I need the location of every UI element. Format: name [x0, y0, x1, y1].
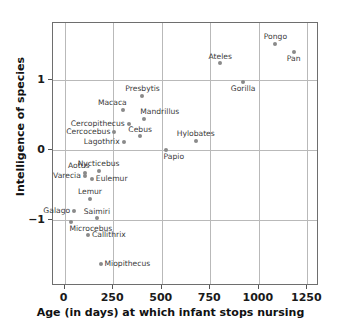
- data-point-label: Lemur: [78, 188, 102, 196]
- data-point: [142, 117, 146, 121]
- data-point: [90, 177, 94, 181]
- data-point-label: Papio: [164, 153, 184, 161]
- data-point: [273, 42, 277, 46]
- data-point-label: Ateles: [208, 53, 231, 61]
- data-point-label: Cercocebus: [66, 128, 110, 136]
- data-point-label: Hylobates: [177, 130, 215, 138]
- data-point-label: Gorilla: [231, 85, 256, 93]
- y-axis-tick-label: 1: [37, 73, 45, 86]
- data-point-label: Varecia: [53, 172, 81, 180]
- gridline-vertical: [307, 23, 308, 284]
- y-axis-tick-mark: [48, 219, 52, 220]
- data-point-label: Miopithecus: [105, 260, 151, 268]
- x-axis-tick-mark: [209, 285, 210, 289]
- gridline-vertical: [65, 23, 66, 284]
- scatter-chart: PongoPanAtelesGorillaPresbytisMacacaMand…: [0, 0, 341, 326]
- gridline-horizontal: [53, 150, 317, 151]
- y-axis-tick-label: −1: [28, 212, 45, 225]
- plot-area: PongoPanAtelesGorillaPresbytisMacacaMand…: [52, 22, 318, 285]
- gridline-horizontal: [53, 80, 317, 81]
- data-point: [72, 209, 76, 213]
- x-axis-tick-label: 0: [60, 291, 68, 304]
- x-axis-tick-mark: [64, 285, 65, 289]
- data-point-label: Galago: [43, 207, 70, 215]
- x-axis-tick-mark: [258, 285, 259, 289]
- x-axis-title: Age (in days) at which infant stops nurs…: [0, 306, 341, 319]
- gridline-vertical: [113, 23, 114, 284]
- data-point-label: Macaca: [98, 99, 127, 107]
- x-axis-tick-label: 1000: [242, 291, 273, 304]
- data-point-label: Pan: [287, 55, 301, 63]
- y-axis-tick-mark: [48, 79, 52, 80]
- data-point: [86, 233, 90, 237]
- data-point-label: Pongo: [264, 33, 287, 41]
- x-axis-tick-mark: [112, 285, 113, 289]
- x-axis-tick-mark: [306, 285, 307, 289]
- x-axis-tick-label: 750: [198, 291, 221, 304]
- data-point: [140, 94, 144, 98]
- gridline-horizontal: [53, 220, 317, 221]
- data-point: [138, 134, 142, 138]
- data-point: [194, 139, 198, 143]
- data-point-label: Callithrix: [92, 231, 126, 239]
- data-point-label: Aotus: [68, 162, 89, 170]
- data-point: [88, 197, 92, 201]
- data-point: [97, 169, 101, 173]
- data-point: [83, 174, 87, 178]
- y-axis-tick-label: 0: [37, 142, 45, 155]
- x-axis-tick-mark: [161, 285, 162, 289]
- gridline-vertical: [210, 23, 211, 284]
- data-point: [99, 262, 103, 266]
- data-point-label: Eulemur: [96, 175, 128, 183]
- data-point-label: Lagothrix: [84, 138, 120, 146]
- y-axis-tick-mark: [48, 149, 52, 150]
- x-axis-tick-label: 500: [149, 291, 172, 304]
- gridline-vertical: [259, 23, 260, 284]
- data-point-label: Saimiri: [84, 208, 110, 216]
- data-point: [112, 130, 116, 134]
- x-axis-tick-label: 250: [101, 291, 124, 304]
- data-point: [121, 108, 125, 112]
- data-point-label: Mandrillus: [140, 108, 179, 116]
- data-point: [122, 140, 126, 144]
- data-point: [218, 61, 222, 65]
- y-axis-title: Intelligence of species: [14, 47, 27, 207]
- data-point-label: Presbytis: [125, 85, 159, 93]
- x-axis-tick-label: 1250: [291, 291, 322, 304]
- data-point-label: Cebus: [128, 126, 152, 134]
